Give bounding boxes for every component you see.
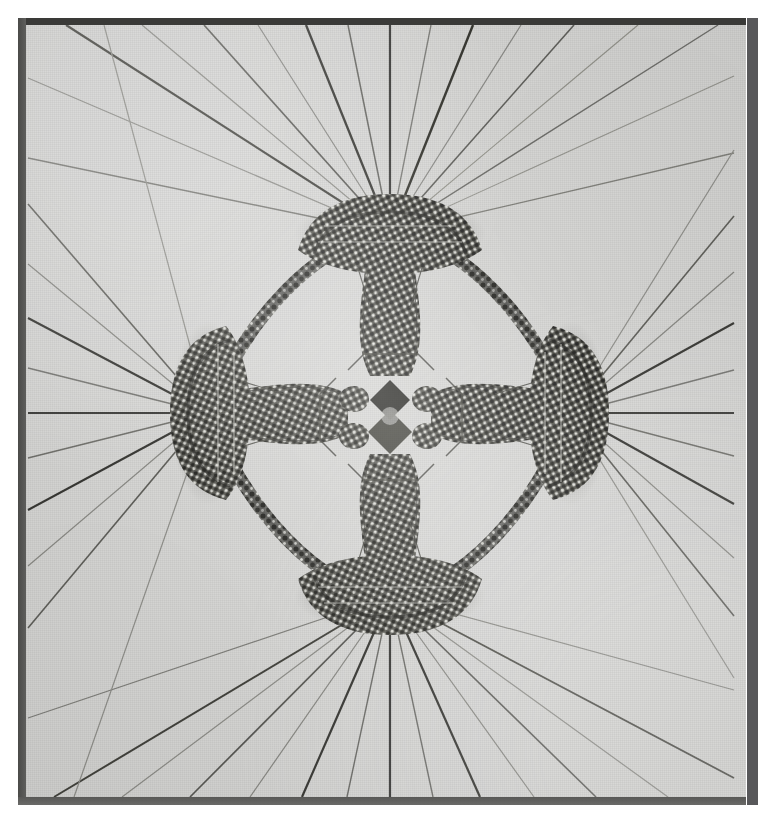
photographic-plate-page: four-fold symmetric woven thread rosette… (0, 0, 765, 823)
printed-plate (18, 18, 746, 805)
lobe-bottom (294, 555, 486, 635)
inner-arm-top (360, 264, 421, 376)
plate-frame-bottom (18, 797, 746, 805)
woven-rosette-layer (18, 18, 746, 805)
plate-frame-top (18, 18, 746, 25)
inner-arm-left (236, 384, 348, 445)
lobe-right (529, 321, 609, 505)
lobe-top (294, 194, 486, 274)
lobe-left (170, 321, 250, 505)
inner-arm-bottom (360, 454, 421, 566)
plate-frame-left (18, 18, 26, 805)
plate-frame-right (747, 18, 758, 805)
inner-arm-right (431, 384, 543, 445)
